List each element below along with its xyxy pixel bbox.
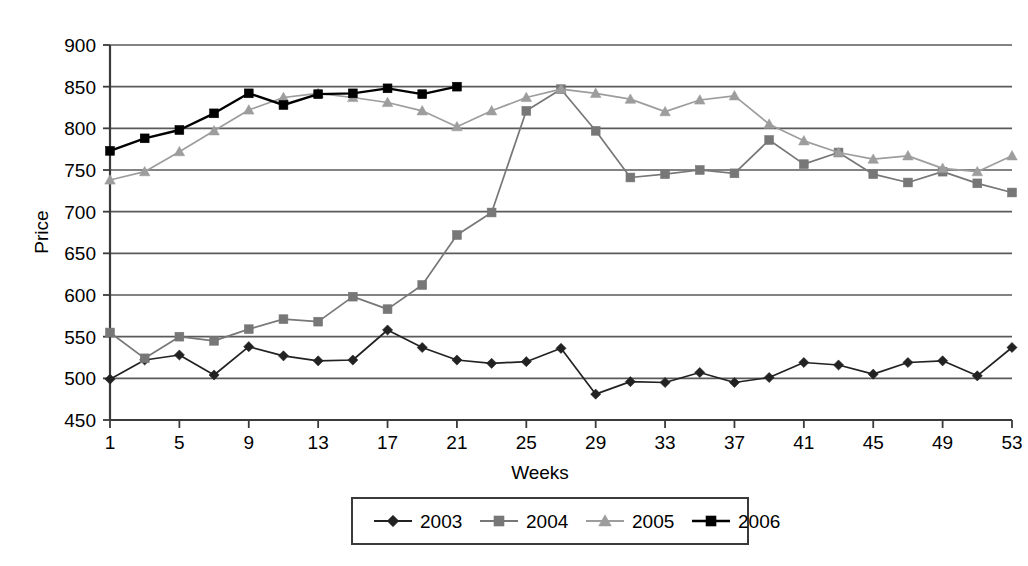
data-point-2004-w5	[175, 332, 184, 341]
data-point-2003-w23	[487, 358, 497, 368]
data-point-2006-w3	[140, 134, 149, 143]
x-tick-label-37: 37	[724, 432, 745, 453]
data-point-2005-w7	[209, 126, 220, 135]
y-tick-label-600: 600	[64, 285, 96, 306]
data-series-group	[105, 82, 1018, 399]
data-point-2006-w1	[106, 146, 115, 155]
data-point-2004-w31	[626, 173, 635, 182]
data-point-2004-w19	[418, 281, 427, 290]
y-tick-label-650: 650	[64, 243, 96, 264]
price-weeks-line-chart: 450500550600650700750800850900 159131721…	[0, 0, 1028, 566]
data-point-2006-w13	[314, 90, 323, 99]
data-point-2006-w9	[244, 89, 253, 98]
chart-canvas: 450500550600650700750800850900 159131721…	[0, 0, 1028, 566]
x-tick-label-17: 17	[377, 432, 398, 453]
data-point-2006-w21	[453, 82, 462, 91]
data-point-2005-w21	[452, 121, 463, 130]
data-point-2004-w3	[140, 354, 149, 363]
legend-marker-2003	[387, 515, 399, 527]
data-point-2003-w25	[521, 357, 531, 367]
data-point-2004-w25	[522, 106, 531, 115]
legend-label-2005: 2005	[632, 511, 674, 532]
data-point-2003-w41	[799, 357, 809, 367]
data-point-2004-w45	[869, 170, 878, 179]
data-point-2003-w19	[417, 342, 427, 352]
chart-legend: 2003200420052006	[352, 498, 780, 544]
x-tick-label-41: 41	[793, 432, 814, 453]
y-tick-label-900: 900	[64, 35, 96, 56]
data-point-2004-w13	[314, 317, 323, 326]
data-point-2003-w49	[938, 356, 948, 366]
data-point-2006-w11	[279, 101, 288, 110]
data-point-2003-w21	[452, 355, 462, 365]
legend-label-2006: 2006	[738, 511, 780, 532]
y-tick-label-700: 700	[64, 202, 96, 223]
y-tick-label-750: 750	[64, 160, 96, 181]
gridlines-group	[110, 45, 1012, 420]
data-point-2005-w53	[1007, 151, 1018, 160]
data-point-2004-w21	[453, 231, 462, 240]
data-point-2003-w35	[695, 367, 705, 377]
data-point-2003-w47	[903, 357, 913, 367]
data-point-2003-w13	[313, 356, 323, 366]
legend-entry-2005[interactable]: 2005	[586, 511, 674, 532]
data-point-2004-w41	[799, 160, 808, 169]
data-point-2006-w15	[348, 89, 357, 98]
y-tick-label-850: 850	[64, 77, 96, 98]
data-point-2006-w17	[383, 84, 392, 93]
axes-group	[103, 45, 1012, 428]
data-point-2004-w51	[973, 179, 982, 188]
data-point-2003-w39	[764, 372, 774, 382]
y-tick-label-550: 550	[64, 327, 96, 348]
data-point-2004-w53	[1008, 188, 1017, 197]
y-axis-tick-labels: 450500550600650700750800850900	[64, 35, 96, 431]
y-tick-label-500: 500	[64, 368, 96, 389]
x-tick-label-1: 1	[105, 432, 116, 453]
y-axis-title: Price	[31, 210, 52, 253]
data-point-2003-w1	[105, 374, 115, 384]
x-axis-tick-labels: 1591317212529333741454953	[105, 432, 1023, 453]
y-tick-label-450: 450	[64, 410, 96, 431]
series-line-2004	[110, 89, 1012, 358]
legend-marker-2004	[494, 516, 504, 526]
x-axis-title: Weeks	[511, 462, 569, 483]
legend-entry-2003[interactable]: 2003	[374, 511, 462, 532]
data-point-2004-w17	[383, 305, 392, 314]
y-tick-label-800: 800	[64, 118, 96, 139]
data-point-2004-w47	[904, 178, 913, 187]
x-tick-label-13: 13	[308, 432, 329, 453]
x-tick-label-25: 25	[516, 432, 537, 453]
series-2005	[105, 84, 1018, 184]
data-point-2005-w5	[174, 146, 185, 155]
x-tick-label-53: 53	[1001, 432, 1022, 453]
data-point-2003-w43	[833, 360, 843, 370]
series-2004	[106, 85, 1017, 363]
legend-label-2004: 2004	[526, 511, 569, 532]
legend-entry-2006[interactable]: 2006	[692, 511, 780, 532]
x-tick-label-21: 21	[446, 432, 467, 453]
data-point-2004-w39	[765, 136, 774, 145]
data-point-2005-w3	[139, 166, 150, 175]
data-point-2004-w29	[591, 126, 600, 135]
x-tick-label-9: 9	[243, 432, 254, 453]
data-point-2004-w35	[695, 166, 704, 175]
data-point-2005-w37	[729, 91, 740, 100]
data-point-2004-w9	[244, 325, 253, 334]
data-point-2004-w37	[730, 169, 739, 178]
data-point-2006-w7	[210, 109, 219, 118]
x-tick-label-33: 33	[655, 432, 676, 453]
data-point-2003-w11	[278, 351, 288, 361]
data-point-2004-w11	[279, 315, 288, 324]
x-tick-label-49: 49	[932, 432, 953, 453]
data-point-2004-w15	[348, 292, 357, 301]
data-point-2003-w5	[174, 350, 184, 360]
data-point-2005-w41	[799, 136, 810, 145]
x-tick-label-45: 45	[863, 432, 884, 453]
legend-entry-2004[interactable]: 2004	[480, 511, 569, 532]
data-point-2006-w5	[175, 126, 184, 135]
data-point-2004-w1	[106, 328, 115, 337]
data-point-2005-w47	[903, 151, 914, 160]
x-tick-label-29: 29	[585, 432, 606, 453]
data-point-2004-w33	[661, 170, 670, 179]
series-line-2005	[110, 89, 1012, 180]
